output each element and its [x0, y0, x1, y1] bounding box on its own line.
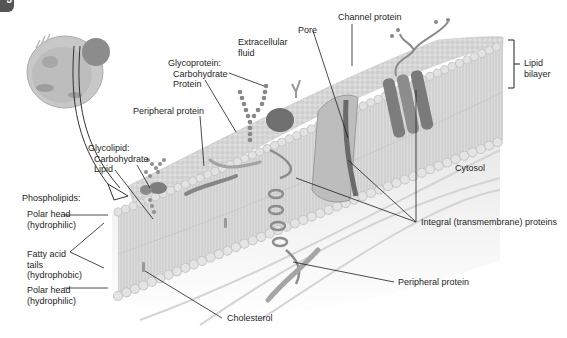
- label-line: Fatty acid: [27, 249, 82, 260]
- globular-protein: [266, 108, 294, 132]
- label-fatty-acid-tails: Fatty acid tails (hydrophobic): [27, 249, 82, 281]
- label-lipid-bilayer: Lipid bilayer: [524, 58, 551, 79]
- label-line: bilayer: [524, 69, 551, 80]
- lipid-bilayer-bracket: [508, 40, 520, 88]
- label-line: Carbohydrate: [168, 69, 228, 80]
- label-cholesterol: Cholesterol: [227, 313, 273, 324]
- pore-protein: [312, 95, 358, 202]
- label-line: Carbohydrate: [88, 154, 149, 165]
- label-line: Glycoprotein:: [168, 58, 228, 69]
- label-line: Extracellular: [238, 37, 288, 48]
- label-line: fluid: [238, 48, 288, 59]
- label-glycoprotein: Glycoprotein: Carbohydrate Protein: [168, 58, 228, 90]
- small-carbohydrate-icon: [292, 80, 300, 98]
- label-line: Glycolipid:: [88, 143, 149, 154]
- label-glycolipid: Glycolipid: Carbohydrate Lipid: [88, 143, 149, 175]
- label-peripheral-protein-top: Peripheral protein: [133, 106, 204, 117]
- label-line: Polar head: [27, 285, 76, 296]
- membrane-diagram: 3: [0, 0, 567, 338]
- label-phospholipids: Phospholipids:: [22, 193, 81, 204]
- label-line: (hydrophilic): [27, 220, 76, 231]
- label-cytosol: Cytosol: [455, 163, 485, 174]
- cell-illustration: [27, 34, 110, 108]
- label-line: tails: [27, 260, 82, 271]
- label-polar-head-top: Polar head (hydrophilic): [27, 209, 76, 230]
- label-line: Lipid: [88, 164, 149, 175]
- label-integral-proteins: Integral (transmembrane) proteins: [421, 217, 557, 228]
- label-pore: Pore: [298, 25, 317, 36]
- label-line: Polar head: [27, 209, 76, 220]
- label-channel-protein: Channel protein: [338, 12, 402, 23]
- label-line: Lipid: [524, 58, 551, 69]
- label-line: Protein: [168, 79, 228, 90]
- label-peripheral-protein-bottom: Peripheral protein: [398, 277, 469, 288]
- label-line: (hydrophilic): [27, 296, 76, 307]
- label-polar-head-bottom: Polar head (hydrophilic): [27, 285, 76, 306]
- label-line: (hydrophobic): [27, 270, 82, 281]
- label-extracellular-fluid: Extracellular fluid: [238, 37, 288, 58]
